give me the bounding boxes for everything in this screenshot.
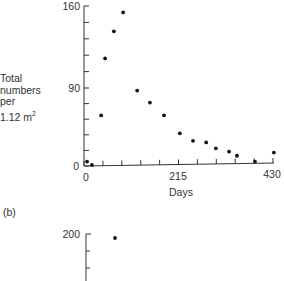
y-tick-label-90: 90 [68, 82, 80, 94]
data-point [121, 11, 125, 15]
panel-b-axes [86, 234, 91, 281]
x-tick-label-430: 430 [263, 168, 281, 180]
x-tick-label-215: 215 [169, 170, 187, 182]
data-point [178, 131, 182, 135]
data-point [191, 139, 195, 143]
data-point [162, 113, 166, 117]
data-point [99, 114, 103, 118]
panel-b-y-tick-label-200: 200 [62, 228, 80, 240]
panel-b-data-points [113, 236, 117, 240]
data-point [85, 160, 89, 164]
data-point [204, 140, 208, 144]
data-point [135, 89, 139, 93]
data-point [227, 150, 231, 154]
data-point [253, 160, 257, 164]
x-axis-title: Days [169, 186, 193, 198]
data-point [148, 101, 152, 105]
data-point [113, 236, 117, 240]
y-axis-ticks [84, 6, 89, 166]
y-tick-label-160: 160 [62, 0, 80, 12]
data-point [103, 56, 107, 60]
data-point [272, 151, 276, 155]
data-point [235, 154, 239, 158]
scatter-chart: 160 90 0 0 215 430 Days 200 [0, 0, 284, 281]
data-point [112, 29, 116, 33]
y-tick-label-0: 0 [73, 160, 79, 172]
data-point [214, 146, 218, 150]
x-tick-label-0: 0 [83, 171, 89, 183]
panel-a-data-points [85, 11, 276, 167]
data-point [90, 163, 94, 167]
